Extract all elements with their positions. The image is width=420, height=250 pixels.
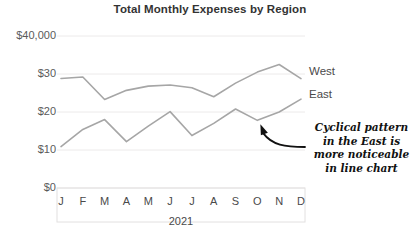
series-label-east: East — [309, 88, 332, 100]
x-axis-tick-label: J — [161, 195, 179, 207]
x-axis-tick-label: S — [227, 195, 245, 207]
series-line-east — [61, 99, 301, 147]
y-axis-tick-label: $40,000 — [0, 29, 56, 41]
annotation-line-2: in the East is — [305, 135, 418, 149]
annotation-line-4: in line chart — [305, 162, 418, 176]
annotation-line-1: Cyclical pattern — [305, 121, 418, 135]
y-axis-tick-label: $20 — [0, 105, 56, 117]
x-axis-tick-label: M — [96, 195, 114, 207]
x-axis-tick-label: N — [270, 195, 288, 207]
x-axis-tick-label: D — [292, 195, 310, 207]
chart-annotation: Cyclical pattern in the East is more not… — [305, 121, 418, 175]
y-axis-tick-label: $10 — [0, 143, 56, 155]
series-line-west — [61, 65, 301, 100]
x-axis-title: 2021 — [57, 215, 305, 227]
x-axis-tick-label: A — [117, 195, 135, 207]
x-axis-tick-label: A — [205, 195, 223, 207]
expenses-line-chart: Total Monthly Expenses by Region Cyclica… — [0, 0, 420, 250]
series-label-west: West — [309, 65, 335, 77]
y-axis-tick-label: $30 — [0, 67, 56, 79]
x-axis-tick-label: J — [183, 195, 201, 207]
x-axis-tick-label: F — [74, 195, 92, 207]
x-axis-tick-label: M — [139, 195, 157, 207]
annotation-arrow — [263, 133, 305, 147]
y-axis-tick-label: $0 — [0, 181, 56, 193]
x-axis-tick-label: O — [248, 195, 266, 207]
annotation-arrowhead — [260, 124, 268, 135]
x-axis-tick-label: J — [52, 195, 70, 207]
annotation-line-3: more noticeable — [305, 148, 418, 162]
